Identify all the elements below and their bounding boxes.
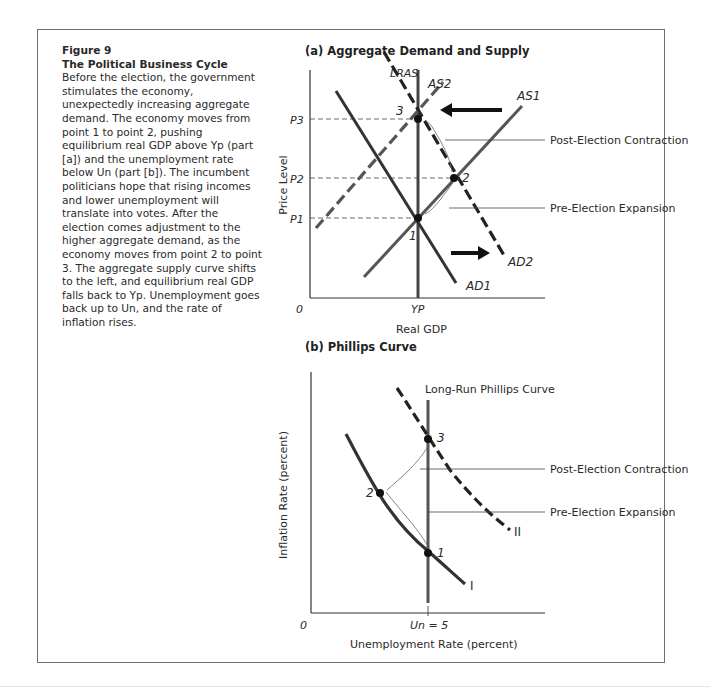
yp-tick: YP bbox=[411, 303, 425, 316]
p3-tick: P3 bbox=[290, 114, 304, 127]
panel-a-ylabel: Price Level bbox=[277, 155, 290, 214]
ad2-label: AD2 bbox=[507, 255, 533, 269]
p2-tick: P2 bbox=[290, 173, 304, 186]
panel-b-chart: 3 2 1 Long-Run Phillips Curve I II Post-… bbox=[277, 372, 688, 651]
p1-tick: P1 bbox=[290, 213, 304, 226]
srpc-i-curve bbox=[346, 434, 465, 584]
panel-b-post-election-label: Post-Election Contraction bbox=[550, 463, 688, 476]
un-tick: Un = 5 bbox=[410, 619, 448, 632]
point-3 bbox=[414, 115, 422, 123]
lrpc-label: Long-Run Phillips Curve bbox=[425, 383, 555, 396]
ad1-line bbox=[336, 91, 456, 283]
srpc-ii-curve bbox=[397, 388, 510, 530]
panel-a-origin: 0 bbox=[296, 303, 303, 316]
pre-election-brace-b bbox=[386, 492, 428, 546]
point-3-label: 3 bbox=[396, 104, 404, 118]
srpc-ii-label: II bbox=[514, 525, 521, 539]
point-1-b bbox=[424, 549, 432, 557]
as2-line bbox=[316, 82, 443, 228]
post-election-brace-b bbox=[387, 446, 428, 490]
point-2-b bbox=[376, 489, 384, 497]
panel-a-post-election-label: Post-Election Contraction bbox=[550, 134, 688, 147]
point-3-b bbox=[424, 435, 432, 443]
point-1-b-label: 1 bbox=[437, 546, 445, 560]
as1-line bbox=[364, 106, 522, 277]
panel-a-xlabel: Real GDP bbox=[396, 323, 447, 336]
ad1-label: AD1 bbox=[465, 279, 491, 293]
srpc-i-label: I bbox=[470, 579, 474, 593]
point-2 bbox=[450, 174, 458, 182]
as1-label: AS1 bbox=[516, 89, 540, 103]
panel-b-ylabel: Inflation Rate (percent) bbox=[277, 431, 290, 559]
point-3-b-label: 3 bbox=[437, 431, 445, 445]
point-2-label: 2 bbox=[462, 171, 470, 185]
as2-label: AS2 bbox=[427, 77, 451, 91]
panel-b-pre-election-label: Pre-Election Expansion bbox=[550, 506, 676, 519]
panel-b-xlabel: Unemployment Rate (percent) bbox=[350, 638, 517, 651]
as-shift-left-arrow bbox=[440, 103, 502, 117]
panel-a-pre-election-label: Pre-Election Expansion bbox=[550, 202, 676, 215]
page-bottom-rule bbox=[0, 686, 710, 687]
ad-shift-right-arrow bbox=[451, 246, 490, 260]
lras-label: LRAS bbox=[390, 67, 418, 80]
point-2-b-label: 2 bbox=[366, 486, 374, 500]
panel-b-origin: 0 bbox=[300, 619, 307, 632]
point-1-label: 1 bbox=[409, 229, 417, 243]
panel-a-chart: 3 2 1 LRAS AS2 AS1 AD2 AD1 Post-Election… bbox=[277, 52, 688, 336]
point-1 bbox=[414, 214, 422, 222]
charts-svg: 3 2 1 LRAS AS2 AS1 AD2 AD1 Post-Election… bbox=[0, 0, 710, 696]
